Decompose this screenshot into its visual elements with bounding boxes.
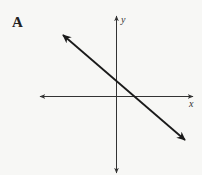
y-axis-label: y [120,14,126,25]
graph-figure: A y x [0,0,202,175]
x-axis-label: x [188,98,194,109]
coordinate-plane: y x [0,0,202,175]
plotted-line [63,35,185,140]
